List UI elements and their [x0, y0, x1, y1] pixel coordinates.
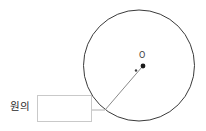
answer-input[interactable] — [38, 96, 91, 121]
leader-line-diagonal — [105, 67, 142, 110]
circle-center-letter-o-label: O — [139, 51, 145, 61]
leader-line-dot — [135, 69, 137, 71]
circle-diagram-figure — [0, 0, 206, 131]
diagram-canvas: O 원의 — [0, 0, 206, 131]
circle-center-dot — [141, 64, 146, 69]
main-circle-outline — [84, 10, 195, 121]
prompt-label: 원의 — [10, 100, 30, 113]
answer-box[interactable] — [37, 95, 92, 122]
